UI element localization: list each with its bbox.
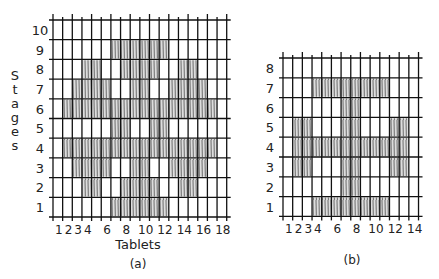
stage-label: 2 <box>266 180 274 195</box>
stage-label: 5 <box>36 121 44 136</box>
tablet-stage-diagram: 12345678910 1234681012141618 Stages Tabl… <box>0 0 439 279</box>
figure-a-x-axis-title: Tablets <box>114 237 161 252</box>
tablet-label: 14 <box>407 222 422 236</box>
stage-label: 3 <box>266 160 274 175</box>
figure-b-caption: (b) <box>344 253 361 267</box>
tablet-label: 14 <box>177 223 192 237</box>
stage-label: 6 <box>36 102 44 117</box>
figure-a-y-axis-title: Stages <box>11 68 19 153</box>
stage-label: 8 <box>36 62 44 77</box>
stage-label: 9 <box>36 43 44 58</box>
figure-a: 12345678910 1234681012141618 Stages Tabl… <box>11 14 231 271</box>
tablet-label: 1 <box>55 223 63 237</box>
tablet-label: 8 <box>353 222 361 236</box>
tablet-label: 2 <box>65 223 73 237</box>
figure-a-caption: (a) <box>130 257 147 271</box>
stage-label: 7 <box>266 81 274 96</box>
tablet-label: 6 <box>333 222 341 236</box>
tablet-label: 8 <box>123 223 131 237</box>
stage-label: 5 <box>266 120 274 135</box>
stage-label: 1 <box>36 200 44 215</box>
tablet-label: 10 <box>138 223 153 237</box>
tablet-label: 3 <box>304 222 312 236</box>
figure-b-stage-labels: 12345678 <box>266 61 274 215</box>
stage-label: 1 <box>266 200 274 215</box>
tablet-label: 12 <box>157 223 172 237</box>
figure-a-stage-labels: 12345678910 <box>32 23 49 215</box>
stage-label: 6 <box>266 101 274 116</box>
tablet-label: 2 <box>295 222 303 236</box>
stage-label: 7 <box>36 82 44 97</box>
stage-label: 8 <box>266 61 274 76</box>
tablet-label: 12 <box>388 222 403 236</box>
tablet-label: 3 <box>74 223 82 237</box>
stage-label: 10 <box>32 23 49 38</box>
tablet-label: 4 <box>314 222 322 236</box>
tablet-label: 6 <box>103 223 111 237</box>
stage-label: 2 <box>36 180 44 195</box>
tablet-label: 16 <box>196 223 211 237</box>
stage-label: 3 <box>36 161 44 176</box>
figure-b: 12345678 123468101214 (b) <box>266 52 423 267</box>
tablet-label: 1 <box>285 222 293 236</box>
figure-b-tablet-labels: 123468101214 <box>285 222 422 236</box>
figure-a-tablet-labels: 1234681012141618 <box>55 223 231 237</box>
tablet-label: 4 <box>84 223 92 237</box>
stage-label: 4 <box>36 141 44 156</box>
stage-label: 4 <box>266 140 274 155</box>
tablet-label: 10 <box>368 222 383 236</box>
tablet-label: 18 <box>215 223 230 237</box>
